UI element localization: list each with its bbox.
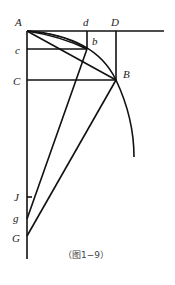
chord-AB xyxy=(27,31,116,80)
line-bg xyxy=(27,49,87,219)
chord-Ab xyxy=(27,31,87,49)
label-B: B xyxy=(123,68,130,80)
geometry-diagram: A d D b c C B J g G （图1−9） xyxy=(0,0,175,285)
label-c: c xyxy=(15,44,20,56)
label-b: b xyxy=(92,35,98,47)
label-J: J xyxy=(14,191,20,203)
line-BG xyxy=(27,80,116,236)
label-C: C xyxy=(13,75,21,87)
label-g: g xyxy=(13,212,19,224)
label-d: d xyxy=(83,16,89,28)
label-G: G xyxy=(12,232,20,244)
label-A: A xyxy=(14,16,22,28)
arc-AB xyxy=(27,31,134,157)
figure-caption: （图1−9） xyxy=(63,250,109,260)
arc-Ab-inner xyxy=(27,31,87,49)
label-D: D xyxy=(110,16,119,28)
